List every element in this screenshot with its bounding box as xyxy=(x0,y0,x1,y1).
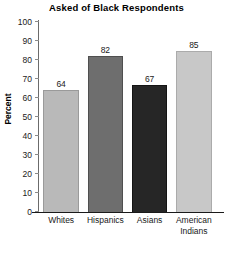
y-axis-tick-label: 10 xyxy=(23,188,32,198)
y-axis-tick: 50 xyxy=(0,112,39,122)
y-axis-tick-label: 60 xyxy=(23,93,32,103)
y-axis-tick: 70 xyxy=(0,74,39,84)
bar-value-label: 67 xyxy=(145,74,154,84)
y-axis-tick-label: 80 xyxy=(23,55,32,65)
y-axis-tick-label: 50 xyxy=(23,112,32,122)
chart-title: Asked of Black Respondents xyxy=(0,2,233,13)
plot-area: 64826785 xyxy=(39,22,216,212)
y-axis-tick: 30 xyxy=(0,150,39,160)
bar: 82 xyxy=(88,56,123,212)
bar-value-label: 82 xyxy=(101,45,110,55)
x-axis-line xyxy=(32,212,224,213)
bar-value-label: 64 xyxy=(56,79,65,89)
y-axis-tick: 40 xyxy=(0,131,39,141)
y-axis-tick: 100 xyxy=(0,17,39,27)
y-axis-tick: 20 xyxy=(0,169,39,179)
y-axis-tick-label: 20 xyxy=(23,169,32,179)
y-axis-tick-label: 100 xyxy=(18,17,32,27)
y-axis-tick: 10 xyxy=(0,188,39,198)
y-axis-label: Percent xyxy=(3,79,13,139)
bar-chart: Asked of Black Respondents Percent 01020… xyxy=(0,0,233,261)
bar: 67 xyxy=(132,85,167,212)
y-axis-tick: 60 xyxy=(0,93,39,103)
y-axis-tick-label: 30 xyxy=(23,150,32,160)
bar: 64 xyxy=(43,90,78,212)
y-axis-tick: 80 xyxy=(0,55,39,65)
y-axis-tick: 90 xyxy=(0,36,39,46)
y-axis-tick-label: 70 xyxy=(23,74,32,84)
x-axis-tick-labels: WhitesHispanicsAsiansAmerican Indians xyxy=(39,215,216,255)
bar-value-label: 85 xyxy=(189,40,198,50)
y-axis-tick-label: 40 xyxy=(23,131,32,141)
y-axis-tick-label: 90 xyxy=(23,36,32,46)
x-axis-tick-label: American Indians xyxy=(164,215,224,237)
bar: 85 xyxy=(176,51,211,213)
